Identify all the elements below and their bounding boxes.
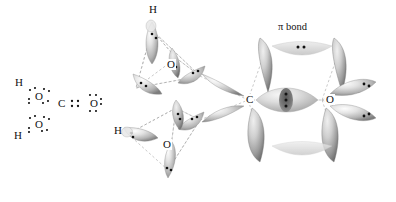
lewis-atom-o-right: O [89, 98, 99, 109]
lewis-atom-o-bottom: O [34, 119, 44, 130]
pi-bond-label: π bond [277, 22, 308, 33]
orbital-label-o-lower: O [162, 139, 172, 150]
lewis-atom-h-top: H [14, 77, 24, 88]
orbital-label-o-upper: O [166, 59, 176, 70]
carbon-sp2-lobes [202, 74, 244, 122]
pi-bond-lower [248, 108, 338, 162]
lewis-atom-c: C [57, 98, 66, 109]
pi-bond-upper [258, 38, 346, 92]
lewis-atom-o-top: O [34, 91, 44, 102]
orbital-label-h-upper: H [148, 4, 158, 15]
sigma-bond-overlap [256, 88, 318, 112]
orbital-label-c-central: C [245, 94, 254, 105]
figure-canvas: H O C O O H H O H O C O π bond [0, 0, 396, 202]
lewis-atom-h-bottom: H [13, 130, 23, 141]
oxygen-lone-pair-lobes [330, 79, 376, 120]
orbital-label-h-lower: H [113, 125, 123, 136]
orbital-label-o-right: O [325, 94, 335, 105]
